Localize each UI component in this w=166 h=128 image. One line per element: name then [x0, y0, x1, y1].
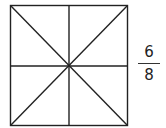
fraction-bar — [138, 63, 160, 64]
fraction-denominator: 8 — [136, 67, 162, 83]
fraction-numerator: 6 — [136, 44, 162, 60]
fraction-label: 6 8 — [136, 44, 162, 83]
